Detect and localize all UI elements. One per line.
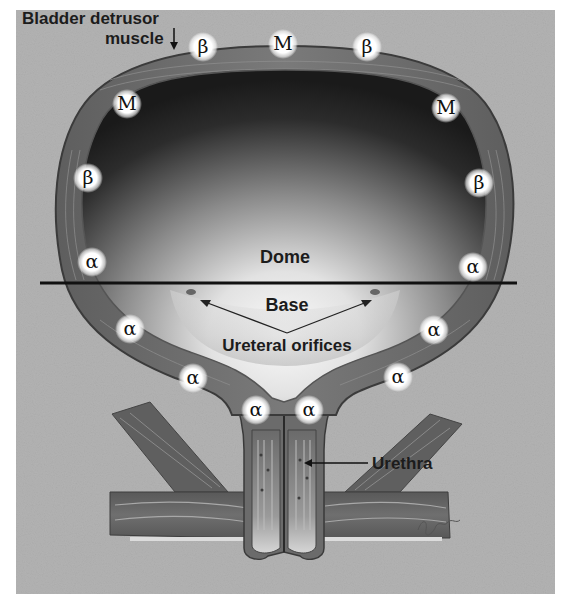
receptor-base-left-alpha-2: α xyxy=(178,363,208,393)
receptor-symbol: α xyxy=(124,317,137,339)
receptor-upper-left-m: M xyxy=(112,89,142,119)
receptor-symbol: M xyxy=(436,96,455,118)
receptor-symbol: β xyxy=(362,35,373,57)
label-dome: Dome xyxy=(260,247,310,267)
bladder-diagram: βMβMMββαααααααα Bladder detrusor muscle … xyxy=(0,0,570,609)
receptor-symbol: α xyxy=(250,398,263,420)
receptor-symbol: α xyxy=(187,366,200,388)
receptor-symbol: β xyxy=(474,171,485,193)
receptor-neck-left-alpha: α xyxy=(241,395,271,425)
label-detrusor-line2: muscle xyxy=(105,29,164,48)
receptor-symbol: α xyxy=(467,255,480,277)
receptor-symbol: β xyxy=(198,35,209,57)
receptor-equator-right-alpha: α xyxy=(458,252,488,282)
label-urethra: Urethra xyxy=(372,454,433,473)
label-detrusor-line1: Bladder detrusor xyxy=(22,9,159,28)
receptor-base-left-alpha-1: α xyxy=(115,314,145,344)
label-base: Base xyxy=(265,295,308,315)
receptor-top-right-beta: β xyxy=(352,32,382,62)
receptor-top-left-beta: β xyxy=(188,32,218,62)
receptor-symbol: M xyxy=(273,32,292,54)
receptor-symbol: α xyxy=(392,365,405,387)
left-ureteral-orifice xyxy=(186,289,196,295)
right-ureteral-orifice xyxy=(370,289,380,295)
receptor-symbol: β xyxy=(83,166,94,188)
receptor-symbol: α xyxy=(428,318,441,340)
receptor-symbol: α xyxy=(86,250,99,272)
receptor-top-center-m: M xyxy=(268,29,298,59)
label-ureteral-orifices: Ureteral orifices xyxy=(222,336,351,355)
receptor-mid-left-beta: β xyxy=(73,163,103,193)
receptor-upper-right-m: M xyxy=(431,93,461,123)
receptor-neck-right-alpha: α xyxy=(294,395,324,425)
receptor-equator-left-alpha: α xyxy=(77,247,107,277)
diagram-canvas: βMβMMββαααααααα Bladder detrusor muscle … xyxy=(0,0,570,609)
receptor-base-right-alpha-2: α xyxy=(383,362,413,392)
receptor-mid-right-beta: β xyxy=(464,168,494,198)
receptor-symbol: α xyxy=(303,398,316,420)
receptor-symbol: M xyxy=(117,92,136,114)
receptor-base-right-alpha-1: α xyxy=(419,315,449,345)
